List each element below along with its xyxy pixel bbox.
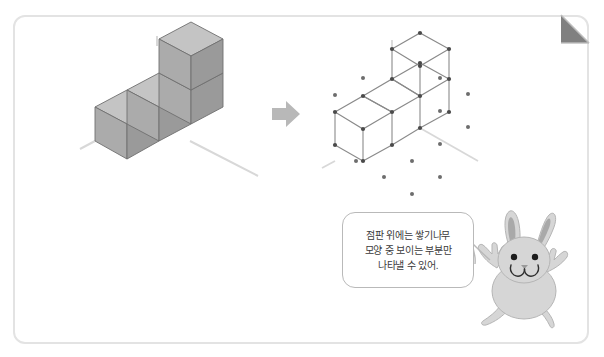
illustration-layer xyxy=(0,0,604,357)
speech-bubble-line-3: 나타낼 수 있어. xyxy=(378,259,439,272)
rabbit-character xyxy=(478,211,567,328)
speech-bubble: 점판 위에는 쌓기나무 모양 중 보이는 부분만 나타낼 수 있어. xyxy=(342,212,474,288)
page-fold-corner xyxy=(561,15,589,43)
dot-grid-wireframe xyxy=(335,33,449,161)
dot-grid-figure xyxy=(322,31,478,196)
rabbit-head xyxy=(498,237,550,283)
page-root: 점판 위에는 쌓기나무 모양 중 보이는 부분만 나타낼 수 있어. xyxy=(0,0,604,357)
right-arrow-icon xyxy=(272,101,300,127)
speech-bubble-line-1: 점판 위에는 쌓기나무 xyxy=(366,229,450,242)
dot-grid-axis-lines xyxy=(322,40,478,168)
dot-grid-vertex-dots xyxy=(333,31,451,163)
solid-cubes-figure xyxy=(80,22,258,176)
speech-bubble-line-2: 모양 중 보이는 부분만 xyxy=(365,244,452,257)
